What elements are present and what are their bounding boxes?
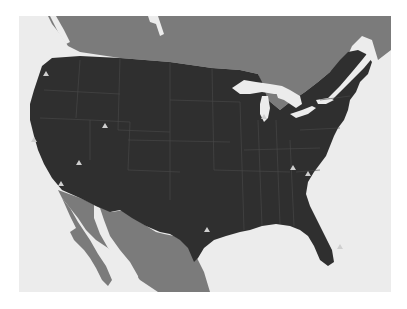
us-map[interactable] <box>19 16 391 292</box>
map-frame[interactable] <box>19 16 391 292</box>
